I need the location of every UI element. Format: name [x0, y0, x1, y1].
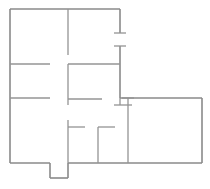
floor-plan-drawing — [0, 0, 210, 189]
exterior-walls-group — [10, 9, 202, 178]
interior-walls-group — [10, 9, 128, 163]
floor-plan-canvas — [0, 0, 210, 189]
door-jambs-group — [114, 33, 134, 105]
